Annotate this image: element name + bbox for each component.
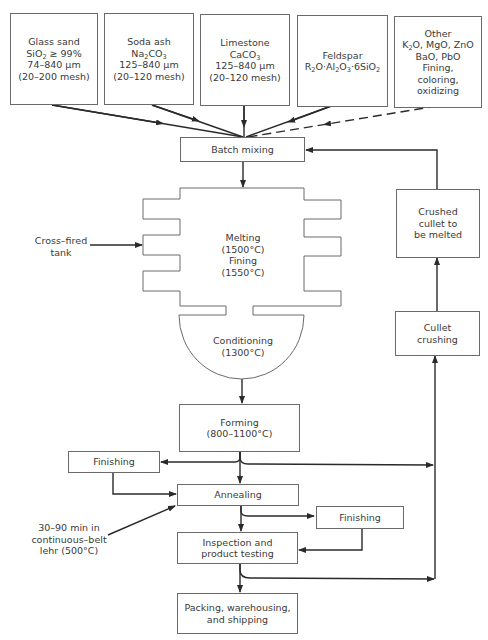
conditioning-text: Conditioning <box>200 335 286 347</box>
material-formula: Na2CO3 <box>131 48 166 60</box>
annealing-box: Annealing <box>177 484 299 506</box>
crushed-cullet-line3: be melted <box>414 229 462 241</box>
material-size: 74–840 μm <box>27 59 80 71</box>
arrow-forming-to-finishing-left <box>161 452 240 462</box>
finishing-right-label: Finishing <box>339 512 381 524</box>
crushed-cullet-line2: cullet to <box>419 218 458 230</box>
raw-material-feldspar: Feldspar R2O·Al2O3·6SiO2 <box>297 15 388 107</box>
raw-material-limestone: Limestone CaCO3 125–840 μm (20–120 mesh) <box>200 14 290 106</box>
material-size: 125–840 μm <box>215 60 274 72</box>
packing-line1: Packing, warehousing, <box>184 602 290 614</box>
cross-fired-annotation: Cross–fired tank <box>30 235 92 258</box>
material-name: Other <box>425 28 452 40</box>
fining-temp: (1550°C) <box>200 267 286 279</box>
material-formula: R2O·Al2O3·6SiO2 <box>305 61 381 73</box>
cullet-crushing-line2: crushing <box>417 334 458 346</box>
feed-line-other-dashed <box>248 106 437 137</box>
feed-line-feldspar <box>246 105 334 137</box>
forming-box: Forming (800–1100°C) <box>179 404 300 452</box>
material-size: 125–840 μm <box>119 59 178 71</box>
material-purpose-oxidizing: oxidizing <box>417 85 459 97</box>
material-name: Glass sand <box>28 36 80 48</box>
cross-fired-text: Cross–fired <box>30 235 92 247</box>
forming-temp: (800–1100°C) <box>207 428 273 440</box>
material-purpose-fining: Fining, <box>422 62 453 74</box>
material-formula: CaCO3 <box>230 49 261 61</box>
packing-line2: and shipping <box>207 614 268 626</box>
feed-line-soda-ash <box>152 105 243 137</box>
raw-material-soda-ash: Soda ash Na2CO3 125–840 μm (20–120 mesh) <box>104 13 194 105</box>
finishing-left-label: Finishing <box>93 456 135 468</box>
finishing-left-box: Finishing <box>68 451 160 473</box>
annealing-label: Annealing <box>214 489 262 501</box>
conditioning-temp: (1300°C) <box>200 347 286 359</box>
lehr-line3: lehr (500°C) <box>30 545 108 557</box>
crushed-cullet-box: Crushed cullet to be melted <box>396 189 480 258</box>
arrow-finishing-left-to-annealing <box>113 472 176 494</box>
melting-temp: (1500°C) <box>200 244 286 256</box>
inspection-box: Inspection and product testing <box>177 532 298 564</box>
material-name: Feldspar <box>322 50 362 62</box>
raw-material-glass-sand: Glass sand SiO2 ≥ 99% 74–840 μm (20–200 … <box>10 13 98 105</box>
material-oxides: BaO, PbO <box>415 51 460 63</box>
tank-text: tank <box>30 247 92 259</box>
batch-mixing-box: Batch mixing <box>180 137 305 162</box>
melting-fining-label: Melting (1500°C) Fining (1550°C) <box>200 232 286 278</box>
material-mesh: (20–200 mesh) <box>18 71 89 83</box>
material-purpose-coloring: coloring, <box>417 74 458 86</box>
fining-text: Fining <box>200 255 286 267</box>
crushed-cullet-line1: Crushed <box>418 206 457 218</box>
arrow-lehr-to-annealing <box>108 506 175 535</box>
finishing-right-box: Finishing <box>316 506 404 529</box>
arrow-inspection-to-cullet <box>240 563 434 579</box>
material-mesh: (20–120 mesh) <box>113 71 184 83</box>
lehr-line1: 30–90 min in <box>30 522 108 534</box>
material-formula: SiO2 ≥ 99% <box>26 48 81 60</box>
raw-material-other: Other K2O, MgO, ZnO BaO, PbO Fining, col… <box>394 16 482 108</box>
lehr-line2: continuous–belt <box>30 534 108 546</box>
arrow-cullet-to-batch <box>306 150 437 189</box>
arrow-finishing-right-to-inspection <box>299 528 362 550</box>
lehr-annotation: 30–90 min in continuous–belt lehr (500°C… <box>30 522 108 557</box>
material-name: Limestone <box>220 37 269 49</box>
batch-mixing-label: Batch mixing <box>211 144 274 156</box>
melting-text: Melting <box>200 232 286 244</box>
inspection-line2: product testing <box>201 548 274 560</box>
cullet-crushing-line1: Cullet <box>424 322 452 334</box>
cullet-crushing-box: Cullet crushing <box>395 311 480 356</box>
arrow-forming-to-cullet <box>240 452 433 465</box>
feed-line-glass-sand <box>52 105 243 137</box>
forming-text: Forming <box>220 417 259 429</box>
arrow-annealing-to-finishing-right <box>241 505 314 516</box>
conditioning-label: Conditioning (1300°C) <box>200 335 286 358</box>
inspection-line1: Inspection and <box>203 537 273 549</box>
packing-box: Packing, warehousing, and shipping <box>177 593 298 634</box>
material-name: Soda ash <box>127 36 171 48</box>
material-mesh: (20–120 mesh) <box>209 72 280 84</box>
material-formula: K2O, MgO, ZnO <box>402 39 474 51</box>
